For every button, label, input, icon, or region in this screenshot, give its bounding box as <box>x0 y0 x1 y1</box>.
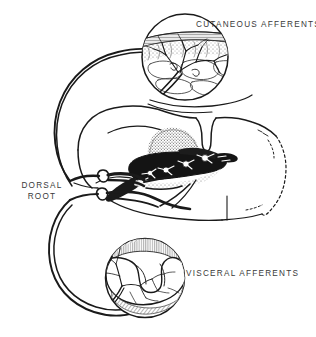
dorsal-root-label: DORSALROOT <box>14 180 70 202</box>
visceral-inset-circle <box>94 235 189 318</box>
figure-illustration <box>0 0 316 337</box>
anatomical-figure: CUTANEOUS AFFERENTS VISCERAL AFFERENTS D… <box>0 0 316 337</box>
dorsal-root-label-line1: DORSAL <box>21 181 62 190</box>
visceral-afferents-label: VISCERAL AFFERENTS <box>186 268 299 279</box>
dorsal-root-label-line2: ROOT <box>28 192 57 201</box>
cutaneous-afferents-label: CUTANEOUS AFFERENTS <box>196 19 316 30</box>
